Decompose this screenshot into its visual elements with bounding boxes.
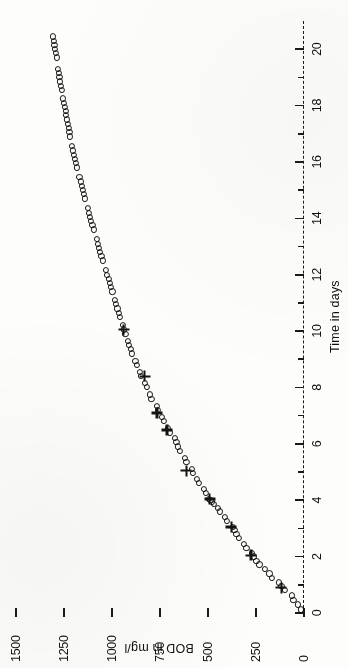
x-tick xyxy=(298,302,304,304)
x-tick-label: 10 xyxy=(310,324,324,337)
x-tick-label: 18 xyxy=(310,99,324,112)
x-tick xyxy=(295,274,304,276)
data-point-cross xyxy=(276,582,287,593)
x-tick xyxy=(295,48,304,50)
y-tick-label: 1500 xyxy=(9,635,23,662)
data-point-cross xyxy=(151,407,162,418)
x-tick xyxy=(295,499,304,501)
y-tick xyxy=(207,608,209,617)
y-tick xyxy=(111,608,113,617)
x-tick xyxy=(298,246,304,248)
data-point-cross xyxy=(162,424,173,435)
y-tick-label: 1250 xyxy=(57,635,71,662)
data-point-cross xyxy=(139,371,150,382)
x-tick xyxy=(298,471,304,473)
x-tick xyxy=(295,330,304,332)
x-tick-label: 20 xyxy=(310,43,324,56)
x-tick-label: 12 xyxy=(310,268,324,281)
x-tick-label: 2 xyxy=(310,553,324,560)
x-tick-label: 8 xyxy=(310,384,324,391)
data-point-cross xyxy=(181,465,192,476)
data-point-cross xyxy=(246,550,257,561)
y-tick xyxy=(63,608,65,617)
x-tick xyxy=(295,105,304,107)
x-tick xyxy=(295,556,304,558)
y-tick-label: 0 xyxy=(297,655,311,662)
x-tick-label: 4 xyxy=(310,497,324,504)
x-tick xyxy=(298,415,304,417)
x-tick xyxy=(295,443,304,445)
y-axis-title: BOD in mg/l xyxy=(111,641,207,655)
x-tick xyxy=(295,387,304,389)
y-tick-label: 250 xyxy=(249,642,263,662)
y-tick xyxy=(255,608,257,617)
data-point-cross xyxy=(118,324,129,335)
scatter-plot: 02468101214161820 0250500750100012501500… xyxy=(0,0,348,668)
x-tick-label: 14 xyxy=(310,212,324,225)
x-tick xyxy=(295,161,304,163)
y-tick xyxy=(159,608,161,617)
x-axis-title: Time in days xyxy=(328,280,342,353)
data-point-cross xyxy=(226,522,237,533)
x-tick xyxy=(298,359,304,361)
data-point-cross xyxy=(204,493,215,504)
x-tick xyxy=(298,528,304,530)
x-tick-label: 16 xyxy=(310,155,324,168)
y-tick xyxy=(15,608,17,617)
rotated-figure-container: 02468101214161820 0250500750100012501500… xyxy=(0,0,348,668)
x-tick-label: 6 xyxy=(310,441,324,448)
x-axis-line xyxy=(303,21,304,613)
x-tick xyxy=(298,189,304,191)
x-tick xyxy=(298,584,304,586)
x-tick xyxy=(298,77,304,79)
figure-page: 02468101214161820 0250500750100012501500… xyxy=(0,0,348,668)
x-tick xyxy=(298,133,304,135)
x-tick-label: 0 xyxy=(310,610,324,617)
x-tick xyxy=(295,218,304,220)
